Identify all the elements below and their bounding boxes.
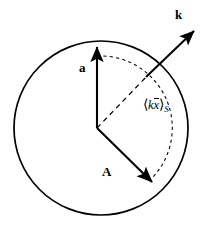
vector-k-label: k [175, 8, 182, 21]
k-inner-ray-dashed [97, 74, 149, 128]
vector-a-label: a [79, 61, 86, 74]
vector-k-arrow [146, 31, 194, 77]
subscript-s: S [164, 104, 169, 114]
kxbar-average-label: ⟨kx⟩S [143, 98, 169, 114]
x-bar-symbol: x [154, 99, 160, 112]
vector-A-label: A [102, 165, 111, 178]
sphere-circle [14, 41, 188, 215]
vector-diagram-figure: a A k ⟨kx⟩S [0, 0, 208, 228]
x-symbol: x [154, 98, 160, 112]
angle-arc-dashed [97, 56, 172, 180]
diagram-canvas [0, 0, 208, 228]
overbar-icon [154, 98, 160, 99]
